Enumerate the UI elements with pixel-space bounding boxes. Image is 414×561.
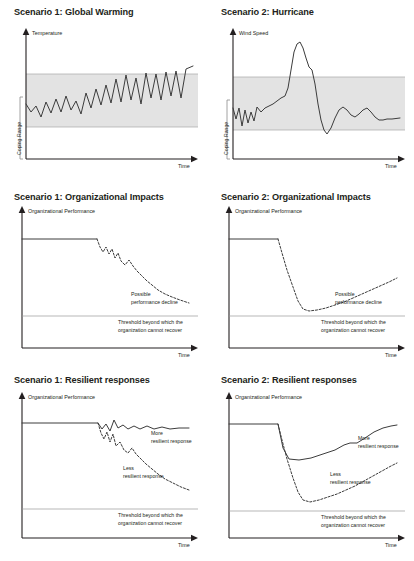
x-axis-label: Time (385, 542, 397, 548)
annotation-line-1: Possible (335, 291, 382, 299)
y-axis-label: Organizational Performance (235, 208, 302, 214)
annotation-line-2: resilient response (330, 479, 371, 487)
annotation-more-resilient-response: More resilient response (358, 435, 399, 450)
y-axis-arrowhead (230, 28, 237, 35)
panel-scenario2-organizational-impacts: Scenario 2: Organizational Impacts Organ… (207, 185, 414, 370)
annotation-line-2: resilient response (358, 443, 399, 451)
chart-global-warming (0, 0, 207, 185)
x-axis-arrowhead (398, 535, 405, 542)
y-axis-arrowhead (19, 392, 26, 399)
chart-hurricane (207, 0, 414, 185)
figure-grid: Scenario 1: Global Warming Temperature T… (0, 0, 414, 561)
annotation-possible-performance-decline: Possible performance decline (335, 291, 382, 306)
annotation-possible-performance-decline: Possible performance decline (131, 291, 178, 306)
annotation-line-2: organization cannot recover (118, 327, 183, 335)
x-axis-label: Time (178, 352, 190, 358)
x-axis-arrowhead (191, 535, 198, 542)
annotation-line-2: resilient response (123, 473, 164, 481)
x-axis-arrowhead (191, 156, 198, 163)
coping-range-label: Coping Range (223, 122, 229, 155)
y-axis-arrowhead (19, 206, 26, 213)
x-axis-label: Time (178, 163, 190, 169)
annotation-line-2: organization cannot recover (118, 520, 183, 528)
annotation-line-1: More (358, 435, 399, 443)
y-axis-arrowhead (226, 206, 233, 213)
annotation-line-1: More (151, 430, 192, 438)
x-axis-arrowhead (191, 345, 198, 352)
x-axis-arrowhead (398, 156, 405, 163)
panel-scenario2-hurricane: Scenario 2: Hurricane Wind Speed Time Co… (207, 0, 414, 185)
annotation-recovery-threshold: Threshold beyond which the organization … (321, 514, 386, 529)
panel-scenario1-organizational-impacts: Scenario 1: Organizational Impacts Organ… (0, 185, 207, 370)
annotation-recovery-threshold: Threshold beyond which the organization … (321, 319, 386, 334)
panel-scenario1-resilient-responses: Scenario 1: Resilient responses Organiza… (0, 370, 207, 561)
annotation-line-2: organization cannot recover (321, 327, 386, 335)
annotation-line-2: organization cannot recover (321, 522, 386, 530)
annotation-less-resilient-response: Less resilient response (123, 465, 164, 480)
x-axis-label: Time (385, 163, 397, 169)
annotation-line-1: Possible (131, 291, 178, 299)
coping-range-label: Coping Range (16, 122, 22, 155)
x-axis-label: Time (178, 542, 190, 548)
x-axis-arrowhead (398, 345, 405, 352)
annotation-line-2: performance decline (131, 299, 178, 307)
y-axis-label: Organizational Performance (28, 208, 95, 214)
y-axis-label: Temperature (32, 30, 62, 36)
annotation-line-1: Threshold beyond which the (321, 319, 386, 327)
annotation-line-1: Less (123, 465, 164, 473)
annotation-less-resilient-response: Less resilient response (330, 471, 371, 486)
annotation-line-1: Threshold beyond which the (321, 514, 386, 522)
y-axis-arrowhead (23, 28, 30, 35)
annotation-line-1: Threshold beyond which the (118, 512, 183, 520)
annotation-line-2: resilient response (151, 438, 192, 446)
panel-scenario2-resilient-responses: Scenario 2: Resilient responses Organiza… (207, 370, 414, 561)
y-axis-arrowhead (226, 392, 233, 399)
annotation-more-resilient-response: More resilient response (151, 430, 192, 445)
panel-scenario1-global-warming: Scenario 1: Global Warming Temperature T… (0, 0, 207, 185)
annotation-line-1: Less (330, 471, 371, 479)
annotation-recovery-threshold: Threshold beyond which the organization … (118, 319, 183, 334)
coping-range-band (233, 77, 405, 130)
annotation-line-2: performance decline (335, 299, 382, 307)
y-axis-label: Organizational Performance (235, 394, 302, 400)
y-axis-label: Wind Speed (239, 30, 268, 36)
annotation-line-1: Threshold beyond which the (118, 319, 183, 327)
annotation-recovery-threshold: Threshold beyond which the organization … (118, 512, 183, 527)
x-axis-label: Time (385, 352, 397, 358)
y-axis-label: Organizational Performance (28, 394, 95, 400)
